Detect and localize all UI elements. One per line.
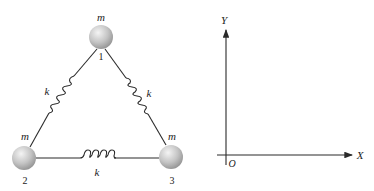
mass-2-label: m	[21, 130, 29, 142]
mass-2-ball	[12, 146, 36, 170]
spring-1-3-label: k	[147, 87, 153, 99]
mass-3-label: m	[168, 130, 176, 142]
mass-1-number: 1	[99, 51, 104, 62]
mass-3-number: 3	[170, 175, 175, 186]
spring-1-3	[105, 49, 166, 145]
origin-label: O	[228, 158, 235, 169]
spring-2-3	[36, 150, 159, 158]
mass-2-number: 2	[23, 175, 28, 186]
diagram-canvas: m 1 m 2 m 3 k k k Y X O	[0, 0, 374, 191]
y-axis-label: Y	[221, 14, 229, 26]
mass-1-ball	[89, 25, 113, 49]
mass-1-label: m	[97, 11, 105, 23]
spring-1-2	[30, 49, 97, 147]
x-axis-label: X	[356, 149, 365, 161]
spring-2-3-label: k	[95, 166, 101, 178]
spring-1-2-label: k	[45, 85, 51, 97]
mass-3-ball	[159, 145, 183, 169]
